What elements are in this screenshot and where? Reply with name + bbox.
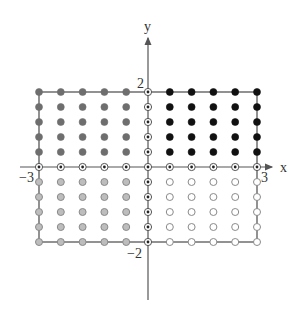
point-marker	[166, 179, 173, 186]
lattice-point	[57, 239, 64, 246]
point-center-dot	[81, 166, 84, 169]
point-center-dot	[147, 196, 150, 199]
point-marker	[254, 209, 261, 216]
lattice-point	[123, 224, 130, 231]
point-marker	[188, 134, 195, 141]
point-center-dot	[147, 106, 150, 109]
point-marker	[79, 224, 86, 231]
point-marker	[101, 119, 108, 126]
point-marker	[36, 104, 43, 111]
point-marker	[57, 179, 64, 186]
point-center-dot	[147, 226, 150, 229]
lattice-point	[144, 178, 151, 185]
lattice-point	[232, 209, 239, 216]
lattice-point	[144, 103, 151, 110]
lattice-point	[253, 163, 260, 170]
lattice-point	[36, 89, 43, 96]
lattice-point	[123, 194, 130, 201]
point-marker	[57, 194, 64, 201]
lattice-point	[254, 119, 261, 126]
point-marker	[188, 119, 195, 126]
lattice-point	[254, 89, 261, 96]
point-marker	[36, 179, 43, 186]
lattice-point	[188, 119, 195, 126]
lattice-point	[35, 163, 42, 170]
point-marker	[188, 149, 195, 156]
point-center-dot	[147, 151, 150, 154]
lattice-point	[254, 149, 261, 156]
point-marker	[254, 179, 261, 186]
point-center-dot	[190, 166, 193, 169]
point-marker	[101, 104, 108, 111]
lattice-point	[166, 179, 173, 186]
point-marker	[188, 239, 195, 246]
lattice-point	[57, 104, 64, 111]
point-marker	[123, 104, 130, 111]
lattice-point	[166, 104, 173, 111]
point-marker	[79, 134, 86, 141]
point-marker	[166, 224, 173, 231]
point-center-dot	[168, 166, 171, 169]
lattice-point	[254, 179, 261, 186]
point-marker	[79, 194, 86, 201]
lattice-point	[101, 163, 108, 170]
point-marker	[36, 194, 43, 201]
lattice-point	[79, 119, 86, 126]
lattice-point	[57, 119, 64, 126]
lattice-point	[36, 134, 43, 141]
lattice-point	[36, 209, 43, 216]
point-marker	[232, 224, 239, 231]
point-center-dot	[147, 166, 150, 169]
point-marker	[57, 89, 64, 96]
lattice-point	[210, 119, 217, 126]
point-marker	[79, 179, 86, 186]
point-marker	[123, 179, 130, 186]
point-marker	[232, 179, 239, 186]
point-center-dot	[147, 121, 150, 124]
lattice-point	[210, 104, 217, 111]
point-marker	[36, 134, 43, 141]
lattice-point	[232, 239, 239, 246]
point-marker	[232, 149, 239, 156]
point-marker	[36, 239, 43, 246]
lattice-point	[57, 149, 64, 156]
point-marker	[210, 149, 217, 156]
point-marker	[188, 194, 195, 201]
point-marker	[101, 224, 108, 231]
lattice-point	[210, 224, 217, 231]
point-marker	[57, 149, 64, 156]
point-center-dot	[38, 166, 41, 169]
point-marker	[210, 104, 217, 111]
point-marker	[166, 119, 173, 126]
lattice-point	[57, 134, 64, 141]
lattice-point	[232, 149, 239, 156]
point-marker	[232, 239, 239, 246]
point-marker	[188, 224, 195, 231]
point-marker	[36, 209, 43, 216]
lattice-point	[166, 134, 173, 141]
lattice-point	[144, 208, 151, 215]
lattice-point	[57, 209, 64, 216]
lattice-point	[144, 223, 151, 230]
lattice-point	[210, 194, 217, 201]
lattice-point	[101, 194, 108, 201]
lattice-point	[254, 104, 261, 111]
lattice-point	[101, 239, 108, 246]
lattice-point	[210, 239, 217, 246]
point-marker	[166, 209, 173, 216]
lattice-point	[188, 163, 195, 170]
lattice-point	[166, 163, 173, 170]
lattice-point	[188, 179, 195, 186]
lattice-point	[232, 224, 239, 231]
lattice-point	[57, 163, 64, 170]
lattice-point	[36, 104, 43, 111]
lattice-diagram: x y −3 3 2 −2	[0, 0, 306, 319]
lattice-point	[254, 224, 261, 231]
point-center-dot	[212, 166, 215, 169]
point-marker	[123, 209, 130, 216]
lattice-point	[144, 238, 151, 245]
point-marker	[123, 224, 130, 231]
point-marker	[254, 239, 261, 246]
point-marker	[79, 119, 86, 126]
point-center-dot	[147, 181, 150, 184]
